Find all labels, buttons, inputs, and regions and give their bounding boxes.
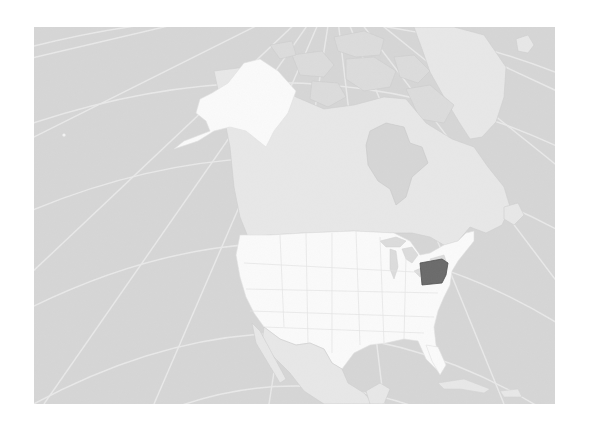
map-title: Locator map of Pennsylvania in North Ame… [0, 0, 1, 1]
locator-map [34, 27, 555, 404]
page: Locator map of Pennsylvania in North Ame… [0, 0, 589, 428]
grain-overlay [34, 27, 555, 404]
